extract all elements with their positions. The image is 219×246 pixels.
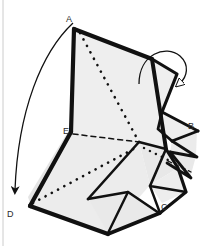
- vertex-label-d: D: [7, 209, 14, 219]
- vertex-label-a: A: [66, 14, 72, 24]
- origami-diagram-figure: A B C D E: [0, 0, 219, 246]
- vertex-label-c: C: [161, 202, 168, 212]
- vertex-label-e: E: [63, 126, 69, 136]
- edge-a-to-e: [71, 29, 74, 132]
- origami-diagram-canvas: A B C D E: [0, 0, 219, 246]
- vertex-label-b: B: [188, 121, 194, 131]
